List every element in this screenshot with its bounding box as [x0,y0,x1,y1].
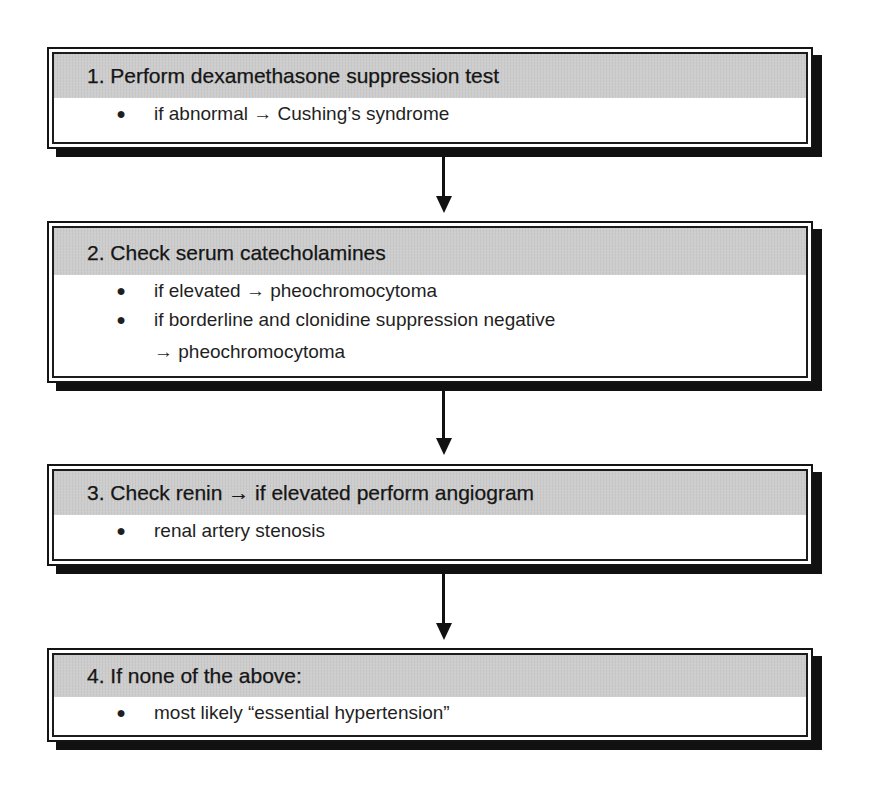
bullet-icon: ● [54,304,154,336]
step-3-box: 3. Check renin → if elevated perform ang… [47,464,813,566]
step-1-body: ● if abnormal → Cushing’s syndrome [54,98,806,127]
list-item: ● if abnormal → Cushing’s syndrome [54,101,806,127]
list-item: ● if elevated → pheochromocytoma [54,278,806,304]
list-item: ● most likely “essential hypertension” [54,700,806,726]
list-item: ● renal artery stenosis [54,518,806,544]
step-2-body: ● if elevated → pheochromocytoma ● if bo… [54,275,806,368]
arrow-down-icon [437,156,450,214]
arrow-down-icon [437,573,450,641]
step-4-inner: 4. If none of the above: ● most likely “… [52,653,808,737]
step-4-body: ● most likely “essential hypertension” [54,697,806,726]
bullet-icon: ● [54,278,154,304]
step-4-title: 4. If none of the above: [54,655,806,697]
step-1-title: 1. Perform dexamethasone suppression tes… [54,54,806,98]
step-1-item-1: if abnormal → Cushing’s syndrome [154,101,806,127]
step-2-inner: 2. Check serum catecholamines ● if eleva… [52,226,808,378]
step-1-box: 1. Perform dexamethasone suppression tes… [47,47,813,149]
step-3-body: ● renal artery stenosis [54,515,806,544]
bullet-icon: ● [54,700,154,726]
step-2-title: 2. Check serum catecholamines [54,228,806,275]
arrow-down-icon [437,390,450,456]
step-3-title: 3. Check renin → if elevated perform ang… [54,471,806,515]
step-4-box: 4. If none of the above: ● most likely “… [47,648,813,742]
step-3-inner: 3. Check renin → if elevated perform ang… [52,469,808,561]
step-1-inner: 1. Perform dexamethasone suppression tes… [52,52,808,144]
bullet-icon: ● [54,518,154,544]
step-4-item-1: most likely “essential hypertension” [154,700,806,726]
list-item: ● if borderline and clonidine suppressio… [54,304,806,368]
step-2-item-2: if borderline and clonidine suppression … [154,304,806,368]
step-2-item-1: if elevated → pheochromocytoma [154,278,806,304]
bullet-icon: ● [54,101,154,127]
step-3-item-1: renal artery stenosis [154,518,806,544]
step-2-box: 2. Check serum catecholamines ● if eleva… [47,221,813,383]
